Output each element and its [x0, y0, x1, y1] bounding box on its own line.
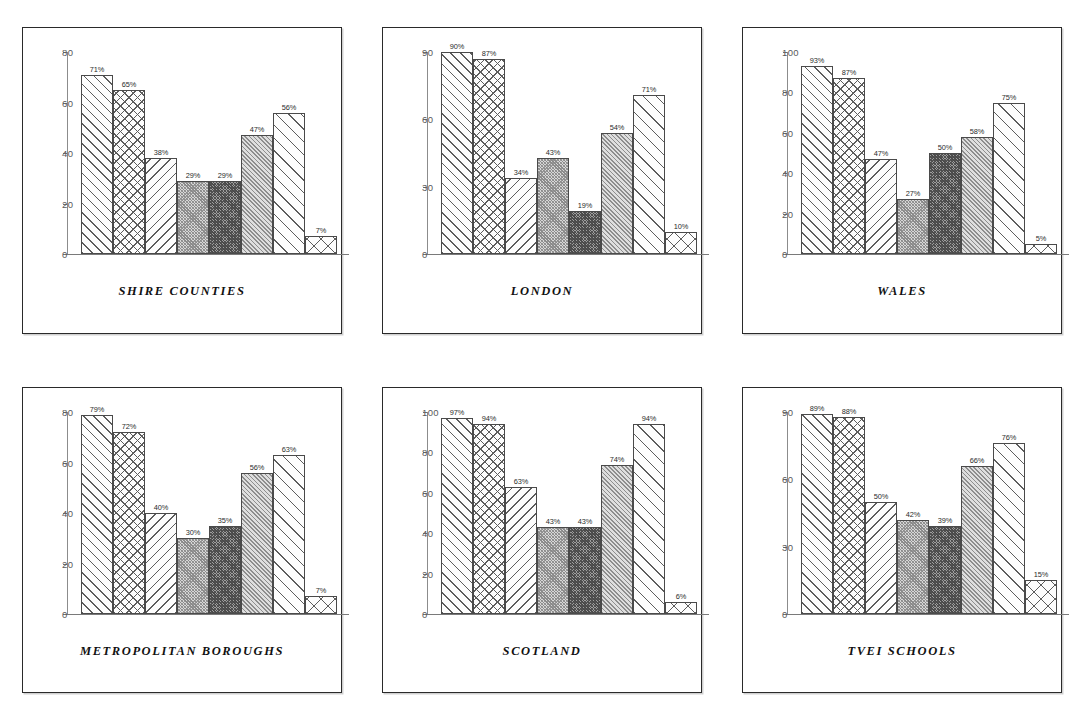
bar-slot: 50%	[929, 52, 961, 254]
bar: 29%	[209, 181, 241, 254]
chart-panel: 02040608010097%94%63%43%43%74%94%6%SCOTL…	[382, 387, 702, 693]
bar: 10%	[665, 232, 697, 254]
bar-slot: 6%	[665, 412, 697, 614]
bar-value-label: 65%	[122, 80, 137, 89]
plot-area: 02040608079%72%40%30%35%56%63%7%METROPOL…	[23, 388, 341, 692]
bar-value-label: 66%	[970, 456, 985, 465]
bar-slot: 39%	[929, 412, 961, 614]
bar-value-label: 43%	[578, 517, 593, 526]
bar: 43%	[537, 527, 569, 614]
x-axis-line	[787, 614, 1069, 615]
bar-value-label: 74%	[610, 455, 625, 464]
bar-value-label: 76%	[1002, 433, 1017, 442]
bar-slot: 94%	[633, 412, 665, 614]
bar-value-label: 87%	[842, 68, 857, 77]
panel-title: SCOTLAND	[383, 644, 701, 659]
bar-slot: 97%	[441, 412, 473, 614]
bar: 87%	[473, 59, 505, 254]
bar-slot: 29%	[177, 52, 209, 254]
bar-value-label: 43%	[546, 148, 561, 157]
bar-value-label: 10%	[674, 222, 689, 231]
bar: 75%	[993, 103, 1025, 255]
bar-slot: 15%	[1025, 412, 1057, 614]
y-axis-line	[787, 52, 788, 254]
bar: 54%	[601, 133, 633, 254]
bar-slot: 63%	[505, 412, 537, 614]
bar: 42%	[897, 520, 929, 614]
bar-slot: 27%	[897, 52, 929, 254]
bar-slot: 71%	[81, 52, 113, 254]
bar-value-label: 63%	[514, 477, 529, 486]
chart-cell: 030609089%88%50%42%39%66%76%15%TVEI SCHO…	[720, 360, 1080, 719]
bar-value-label: 43%	[546, 517, 561, 526]
bar-slot: 76%	[993, 412, 1025, 614]
bar-value-label: 50%	[938, 143, 953, 152]
bar-slot: 71%	[633, 52, 665, 254]
bar-slot: 87%	[833, 52, 865, 254]
bar-value-label: 63%	[282, 445, 297, 454]
bar: 56%	[241, 473, 273, 614]
bar-value-label: 72%	[122, 422, 137, 431]
bar: 58%	[961, 137, 993, 254]
bar: 93%	[801, 66, 833, 254]
bar-value-label: 38%	[154, 148, 169, 157]
bar-slot: 30%	[177, 412, 209, 614]
bar-slot: 47%	[241, 52, 273, 254]
bar-series: 93%87%47%27%50%58%75%5%	[801, 52, 1057, 254]
bar-slot: 87%	[473, 52, 505, 254]
bar-value-label: 71%	[642, 85, 657, 94]
bar-value-label: 93%	[810, 56, 825, 65]
plot-area: 02040608010097%94%63%43%43%74%94%6%SCOTL…	[383, 388, 701, 692]
bar-series: 90%87%34%43%19%54%71%10%	[441, 52, 697, 254]
plot-area: 030609090%87%34%43%19%54%71%10%LONDON	[383, 28, 701, 333]
bar-value-label: 34%	[514, 168, 529, 177]
bar-value-label: 58%	[970, 127, 985, 136]
bar: 71%	[633, 95, 665, 254]
bar-slot: 42%	[897, 412, 929, 614]
bar-slot: 19%	[569, 52, 601, 254]
bar-value-label: 54%	[610, 123, 625, 132]
bar-slot: 56%	[273, 52, 305, 254]
bar-value-label: 94%	[482, 414, 497, 423]
chart-cell: 02040608079%72%40%30%35%56%63%7%METROPOL…	[0, 360, 360, 719]
bar: 79%	[81, 415, 113, 614]
panel-title: WALES	[743, 284, 1061, 299]
bar-slot: 90%	[441, 52, 473, 254]
bar: 47%	[241, 135, 273, 254]
bar-series: 97%94%63%43%43%74%94%6%	[441, 412, 697, 614]
bar-value-label: 87%	[482, 49, 497, 58]
bar-value-label: 75%	[1002, 93, 1017, 102]
bar-slot: 54%	[601, 52, 633, 254]
panel-title: TVEI SCHOOLS	[743, 644, 1061, 659]
bar-slot: 56%	[241, 412, 273, 614]
bar-slot: 10%	[665, 52, 697, 254]
bar-value-label: 71%	[90, 65, 105, 74]
bar-slot: 88%	[833, 412, 865, 614]
bar: 50%	[929, 153, 961, 254]
bar-series: 89%88%50%42%39%66%76%15%	[801, 412, 1057, 614]
chart-cell: 02040608010093%87%47%27%50%58%75%5%WALES	[720, 0, 1080, 360]
bar-slot: 75%	[993, 52, 1025, 254]
plot-area: 02040608010093%87%47%27%50%58%75%5%WALES	[743, 28, 1061, 333]
bar-slot: 47%	[865, 52, 897, 254]
bar-value-label: 42%	[906, 510, 921, 519]
bar-value-label: 39%	[938, 516, 953, 525]
bar: 90%	[441, 52, 473, 254]
bar: 30%	[177, 538, 209, 614]
x-axis-line	[427, 254, 709, 255]
bar: 76%	[993, 443, 1025, 614]
x-axis-line	[787, 254, 1069, 255]
bar: 34%	[505, 178, 537, 254]
bar-slot: 63%	[273, 412, 305, 614]
x-axis-line	[67, 614, 349, 615]
panel-title: METROPOLITAN BOROUGHS	[23, 644, 341, 659]
bar: 43%	[569, 527, 601, 614]
bar: 94%	[473, 424, 505, 614]
bar-slot: 65%	[113, 52, 145, 254]
bar-slot: 43%	[537, 412, 569, 614]
bar-slot: 38%	[145, 52, 177, 254]
bar-slot: 94%	[473, 412, 505, 614]
bar: 63%	[273, 455, 305, 614]
x-axis-line	[67, 254, 349, 255]
bar-value-label: 5%	[1036, 234, 1046, 243]
